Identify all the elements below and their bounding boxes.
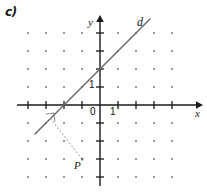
- origin-tick-label: 0: [90, 107, 96, 117]
- x-unit-tick-label: 1: [110, 107, 116, 117]
- line-d-label: d: [137, 16, 143, 28]
- point-P-marker: [81, 158, 83, 160]
- part-label: c): [5, 6, 17, 18]
- right-angle-marker: [46, 113, 55, 122]
- x-axis-label: x: [195, 108, 200, 119]
- y-unit-tick-label: 1: [89, 80, 95, 90]
- coordinate-plane-figure: c) y x d 0 1 1 P: [0, 0, 207, 193]
- point-P-label: P: [74, 160, 81, 171]
- y-axis: [96, 15, 104, 186]
- figure-canvas: [0, 0, 207, 193]
- perpendicular-segment: [51, 119, 83, 160]
- y-axis-label: y: [88, 17, 93, 28]
